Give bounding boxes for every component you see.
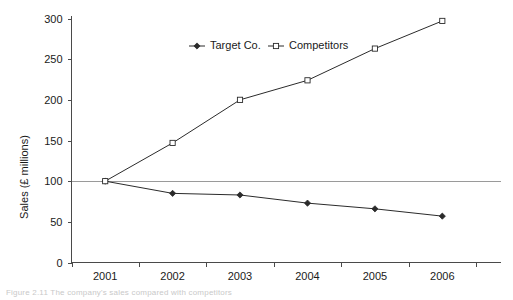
x-tick-label-2003: 2003 — [228, 270, 252, 282]
series-competitors-point-2 — [237, 97, 242, 102]
legend-label-target-co: Target Co. — [210, 39, 261, 51]
y-tick-label-200: 200 — [44, 94, 62, 106]
sales-line-chart: Sales (£ millions) 050100150200250300 20… — [0, 0, 513, 300]
chart-legend: Target Co.Competitors — [189, 39, 349, 51]
legend-marker-competitors-point-0 — [273, 43, 278, 48]
y-axis-ticks: 050100150200250300 — [44, 13, 71, 269]
series-target-co-point-3 — [304, 200, 310, 206]
series-competitors-point-4 — [372, 46, 377, 51]
series-target-co-point-1 — [170, 190, 176, 196]
legend-item-competitors[interactable]: Competitors — [268, 39, 349, 51]
figure-container: Sales (£ millions) 050100150200250300 20… — [0, 0, 513, 300]
series-target-co-point-5 — [439, 213, 445, 219]
x-tick-label-2002: 2002 — [160, 270, 184, 282]
series-competitors-point-1 — [170, 140, 175, 145]
x-tick-label-2005: 2005 — [363, 270, 387, 282]
y-tick-label-150: 150 — [44, 135, 62, 147]
x-tick-label-2004: 2004 — [295, 270, 319, 282]
x-tick-label-2006: 2006 — [430, 270, 454, 282]
legend-label-competitors: Competitors — [289, 39, 349, 51]
y-tick-label-50: 50 — [50, 216, 62, 228]
series-target-co — [102, 178, 445, 219]
series-line-target-co — [105, 181, 442, 216]
y-tick-label-250: 250 — [44, 53, 62, 65]
x-tick-label-2001: 2001 — [93, 270, 117, 282]
series-target-co-point-2 — [237, 192, 243, 198]
series-competitors-point-5 — [440, 18, 445, 23]
legend-item-target-co[interactable]: Target Co. — [189, 39, 261, 51]
y-tick-label-0: 0 — [56, 257, 62, 269]
legend-marker-target-co-point-0 — [194, 43, 200, 49]
y-axis-title: Sales (£ millions) — [18, 135, 30, 219]
figure-caption: Figure 2.11 The company's sales compared… — [6, 288, 446, 297]
series-competitors-point-0 — [103, 179, 108, 184]
y-tick-label-100: 100 — [44, 175, 62, 187]
y-axis-title-group: Sales (£ millions) — [18, 135, 30, 219]
x-axis-ticks: 200120022003200420052006 — [73, 263, 477, 282]
series-target-co-point-4 — [372, 206, 378, 212]
y-tick-label-300: 300 — [44, 13, 62, 25]
series-competitors-point-3 — [305, 78, 310, 83]
